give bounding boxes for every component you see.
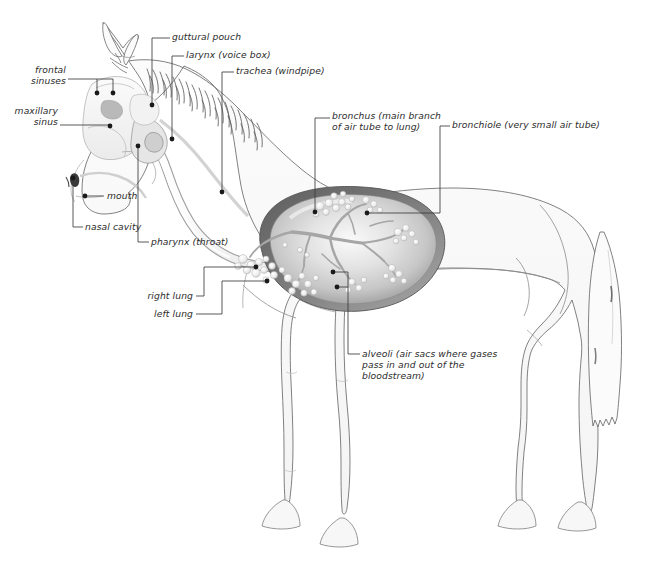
dot-left-lung [265, 279, 270, 284]
label-trachea: trachea (windpipe) [236, 65, 325, 76]
horse-anatomy-illustration [0, 0, 669, 567]
dot-bronchiole [365, 211, 370, 216]
dot-nasal-cavity [71, 176, 76, 181]
label-guttural-pouch: guttural pouch [172, 31, 241, 42]
label-frontal-sinuses-line1: frontal [0, 64, 66, 75]
tail-hair-tuft-a [611, 286, 612, 302]
dot-bronchus [313, 210, 318, 215]
label-maxillary-sinus-line1: maxillary [0, 105, 58, 116]
dot-guttural-pouch [150, 103, 155, 108]
label-bronchiole: bronchiole (very small air tube) [452, 119, 600, 130]
nostril-crease [66, 177, 69, 187]
dot-larynx [170, 137, 175, 142]
dot-alveoli-upper [331, 270, 336, 275]
leader-left-lung [196, 281, 267, 314]
label-right-lung: right lung [120, 290, 193, 301]
label-bronchus-line2: of air tube to lung) [332, 121, 420, 132]
diagram-canvas: guttural pouch larynx (voice box) trache… [0, 0, 669, 567]
hoof-front-right [320, 518, 358, 547]
dot-alveoli-lower [335, 285, 340, 290]
label-larynx: larynx (voice box) [186, 49, 271, 60]
dot-pharynx [136, 144, 141, 149]
label-pharynx: pharynx (throat) [151, 236, 229, 247]
dot-maxillary-sinus [108, 124, 113, 129]
tail-hair-tuft-b [595, 348, 596, 364]
dot-trachea [220, 190, 225, 195]
dot-mouth [83, 194, 88, 199]
hoof-hind-left [498, 500, 536, 529]
label-alveoli-line1: alveoli (air sacs where gases [362, 348, 498, 359]
hoof-front-left [262, 500, 300, 529]
larynx-chamber [145, 132, 163, 152]
label-nasal-cavity: nasal cavity [85, 221, 141, 232]
dot-frontal-sinus-right [111, 91, 116, 96]
label-maxillary-sinus-line2: sinus [0, 116, 58, 127]
label-bronchus-line1: bronchus (main branch [332, 110, 441, 121]
label-left-lung: left lung [120, 308, 193, 319]
tail [588, 232, 621, 427]
label-alveoli-line3: bloodstream) [362, 370, 425, 381]
ear-left [103, 23, 122, 57]
label-mouth: mouth [107, 190, 137, 201]
label-frontal-sinuses-line2: sinuses [0, 75, 66, 86]
dot-right-lung [254, 265, 259, 270]
dot-frontal-sinus-left [95, 91, 100, 96]
label-alveoli-line2: pass in and out of the [362, 359, 464, 370]
